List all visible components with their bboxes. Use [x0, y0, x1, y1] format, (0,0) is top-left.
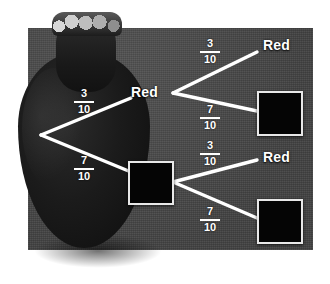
probability-label-root-red: 3 10 — [73, 88, 95, 115]
node-black-bottom — [257, 199, 303, 244]
probability-label-red-red: 3 10 — [199, 38, 221, 65]
node-red-top: Red — [263, 38, 290, 52]
probability-label-root-black: 7 10 — [73, 155, 95, 182]
probability-tree-diagram: 3 10 7 10 3 10 7 10 3 10 7 10 Red Red Re… — [0, 0, 330, 284]
probability-label-black-red: 3 10 — [199, 140, 221, 167]
node-red-level1: Red — [131, 85, 158, 99]
probability-label-black-black: 7 10 — [199, 206, 221, 233]
node-red-bottom: Red — [263, 150, 290, 164]
node-black-top — [257, 91, 303, 136]
node-black-level1 — [128, 161, 174, 205]
probability-label-red-black: 7 10 — [199, 104, 221, 131]
